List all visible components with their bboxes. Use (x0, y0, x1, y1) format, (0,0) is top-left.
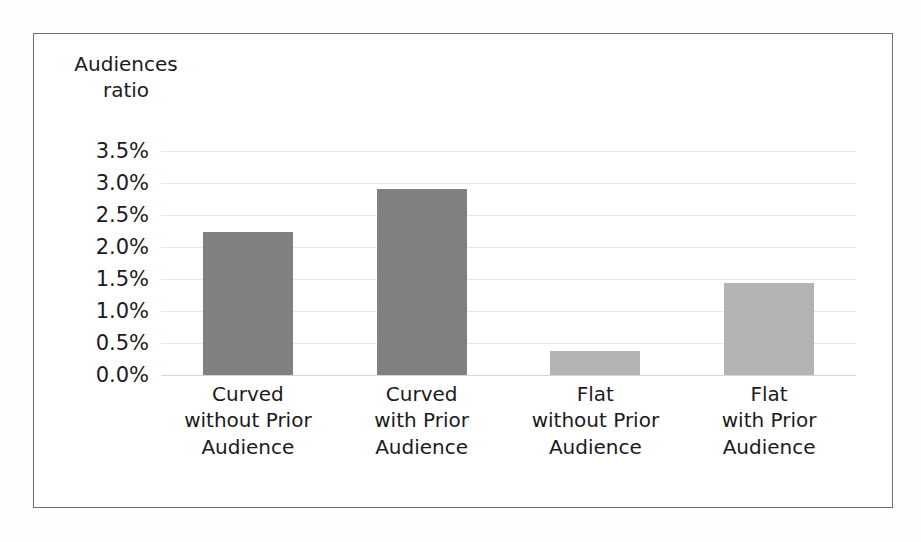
y-axis-tick-label: 3.5% (96, 139, 149, 163)
y-axis-tick-label: 3.0% (96, 171, 149, 195)
x-axis-category-label: Curved without Prior Audience (161, 381, 335, 460)
x-axis-category-labels: Curved without Prior AudienceCurved with… (161, 381, 856, 491)
bar (550, 351, 640, 375)
x-axis-category-label: Flat with Prior Audience (682, 381, 856, 460)
gridline (161, 183, 856, 184)
bar (377, 189, 467, 375)
gridline (161, 215, 856, 216)
gridline (161, 375, 856, 376)
y-axis-tick-label: 2.5% (96, 203, 149, 227)
page-background: Audiences ratio 3.5%3.0%2.5%2.0%1.5%1.0%… (0, 0, 921, 542)
x-axis-category-label: Flat without Prior Audience (509, 381, 683, 460)
x-axis-category-label: Curved with Prior Audience (335, 381, 509, 460)
bar (203, 232, 293, 375)
y-axis-tick-label: 1.5% (96, 267, 149, 291)
chart-frame: Audiences ratio 3.5%3.0%2.5%2.0%1.5%1.0%… (33, 33, 893, 508)
y-axis-tick-label: 2.0% (96, 235, 149, 259)
y-axis-tick-label: 1.0% (96, 299, 149, 323)
y-axis-tick-label: 0.0% (96, 363, 149, 387)
y-axis-title: Audiences ratio (56, 52, 196, 103)
bar (724, 283, 814, 375)
gridline (161, 151, 856, 152)
plot-area: 3.5%3.0%2.5%2.0%1.5%1.0%0.5%0.0% (161, 151, 856, 375)
y-axis-tick-label: 0.5% (96, 331, 149, 355)
